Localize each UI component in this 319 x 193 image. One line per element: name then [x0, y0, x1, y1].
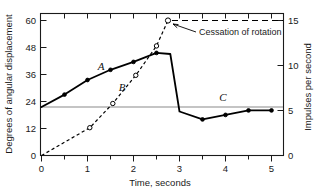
ytick-left-0: 0 — [31, 150, 36, 161]
curve-label-b: B — [119, 81, 126, 93]
left-axis-ticks — [41, 21, 47, 156]
ytick-right-2: 10 — [288, 60, 299, 71]
xtick-3: 3 — [177, 163, 182, 174]
ytick-right-3: 15 — [288, 15, 299, 26]
xtick-0: 0 — [39, 163, 44, 174]
right-axis-ticks — [278, 21, 284, 156]
xtick-1: 1 — [85, 163, 90, 174]
ytick-left-3: 36 — [25, 69, 36, 80]
curve-a-line — [42, 53, 272, 120]
ytick-left-2: 24 — [25, 96, 36, 107]
bottom-axis-ticks — [42, 156, 272, 162]
ytick-left-4: 48 — [25, 42, 36, 53]
y-axis-title-left: Degrees of angular displacement — [3, 14, 14, 154]
ytick-left-5: 60 — [25, 15, 36, 26]
chart-svg: 0 1 2 3 4 5 0 12 24 36 48 60 0 5 10 15 T… — [0, 0, 319, 193]
curve-b-line — [42, 21, 169, 156]
xtick-5: 5 — [269, 163, 274, 174]
ytick-right-1: 5 — [288, 105, 293, 116]
xtick-4: 4 — [223, 163, 228, 174]
annotation-leader — [173, 24, 196, 32]
y-axis-title-right: Impulses per second — [302, 43, 313, 131]
ytick-left-1: 12 — [25, 123, 36, 134]
chart-figure: 0 1 2 3 4 5 0 12 24 36 48 60 0 5 10 15 T… — [0, 0, 319, 193]
xtick-2: 2 — [131, 163, 136, 174]
curve-label-c: C — [219, 91, 227, 103]
curve-a-markers — [63, 51, 274, 121]
x-axis-title: Time, seconds — [129, 177, 191, 188]
curve-label-a: A — [97, 60, 105, 72]
ytick-right-0: 0 — [288, 150, 293, 161]
annotation-cessation: Cessation of rotation — [199, 27, 282, 37]
